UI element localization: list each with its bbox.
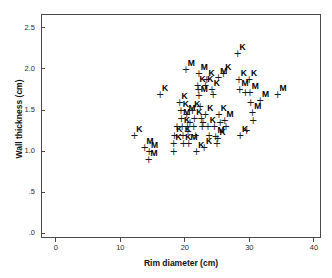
data-point-label: K	[162, 84, 168, 93]
y-tick-label: 2.0	[25, 64, 35, 73]
data-point-label: M	[201, 63, 208, 72]
data-point-label: M	[252, 82, 259, 91]
y-tick-label: .5	[29, 187, 35, 196]
y-tick-label: 1.0	[25, 146, 35, 155]
plus-marker-icon: +	[170, 146, 178, 158]
plus-marker-icon: +	[249, 115, 257, 127]
y-tick-label: 2.5	[25, 23, 35, 32]
plus-marker-icon: +	[209, 89, 217, 101]
y-tick-mark	[41, 151, 45, 152]
data-point-label: M	[150, 149, 157, 158]
data-point-label: K	[136, 125, 142, 134]
data-point-label: M	[262, 90, 269, 99]
x-tick-mark	[249, 238, 250, 242]
data-point-label: K	[251, 69, 257, 78]
plus-marker-icon: +	[222, 121, 230, 133]
data-point-label: K	[207, 104, 213, 113]
x-tick-label: 0	[44, 243, 68, 252]
y-tick-mark	[41, 68, 45, 69]
x-tick-mark	[120, 238, 121, 242]
x-tick-label: 40	[302, 243, 326, 252]
scatter-plot-figure: +K+M+M+M+K+K+K+++K+K+M+K+K+K+M+M+++M++K+…	[0, 0, 332, 278]
data-point-label: M	[279, 84, 286, 93]
data-point-label: K	[239, 43, 245, 52]
plus-marker-icon: +	[213, 138, 221, 150]
x-tick-mark	[313, 238, 314, 242]
x-tick-label: 20	[173, 243, 197, 252]
plot-area: +K+M+M+M+K+K+K+++K+K+M+K+K+K+M+M+++M++K+…	[41, 14, 321, 238]
x-tick-label: 30	[237, 243, 261, 252]
data-point-label: M	[227, 110, 234, 119]
y-tick-mark	[41, 110, 45, 111]
x-tick-mark	[184, 238, 185, 242]
y-tick-mark	[41, 233, 45, 234]
data-point-label: M	[188, 59, 195, 68]
x-tick-label: 10	[108, 243, 132, 252]
data-point-label: K	[225, 63, 231, 72]
x-axis-title: Rim diameter (cm)	[41, 258, 321, 268]
data-point-layer: +K+M+M+M+K+K+K+++K+K+M+K+K+K+M+M+++M++K+…	[42, 15, 322, 239]
y-axis-title: Wall thickness (cm)	[14, 44, 24, 194]
y-tick-mark	[41, 27, 45, 28]
x-tick-mark	[55, 238, 56, 242]
y-tick-mark	[41, 192, 45, 193]
y-tick-label: 1.5	[25, 105, 35, 114]
y-tick-label: .0	[29, 228, 35, 237]
